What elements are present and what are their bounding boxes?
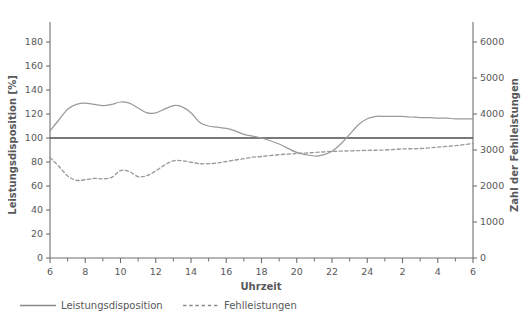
left-tick-label: 60: [31, 180, 43, 191]
right-axis-title: Zahl der Fehlleistungen: [509, 78, 520, 212]
x-tick-label: 14: [185, 266, 197, 277]
left-tick-label: 100: [25, 132, 43, 143]
x-tick-label: 4: [435, 266, 441, 277]
circadian-performance-chart: 020406080100120140160180 010002000300040…: [0, 0, 526, 323]
series-line-fehlleistungen: [50, 144, 473, 181]
x-tick-label: 24: [361, 266, 373, 277]
x-tick-label: 10: [114, 266, 126, 277]
x-tick-label: 6: [470, 266, 476, 277]
right-tick-label: 1000: [480, 216, 504, 227]
left-tick-label: 140: [25, 84, 43, 95]
right-tick-label: 4000: [480, 108, 504, 119]
x-tick-label: 16: [220, 266, 232, 277]
bottom-axis: 681012141618202224246: [47, 258, 476, 277]
chart-figure: 020406080100120140160180 010002000300040…: [0, 0, 526, 323]
chart-legend: Leistungsdisposition Fehlleistungen: [20, 300, 297, 311]
right-tick-label: 6000: [480, 36, 504, 47]
left-tick-label: 80: [31, 156, 43, 167]
series-line-leistungsdisposition: [50, 102, 473, 156]
right-tick-label: 0: [480, 252, 486, 263]
legend-item-leistungsdisposition[interactable]: Leistungsdisposition: [20, 300, 163, 311]
left-tick-label: 40: [31, 204, 43, 215]
legend-item-fehlleistungen[interactable]: Fehlleistungen: [183, 300, 297, 311]
bottom-axis-title: Uhrzeit: [241, 281, 282, 292]
x-tick-label: 20: [291, 266, 303, 277]
legend-label-fehlleistungen: Fehlleistungen: [224, 300, 297, 311]
left-axis-title: Leistungsdisposition [%]: [7, 75, 18, 214]
right-axis: 0100020003000400050006000: [473, 22, 504, 263]
series-plot-area: [50, 102, 473, 181]
x-tick-label: 8: [82, 266, 88, 277]
x-tick-label: 2: [399, 266, 405, 277]
left-tick-label: 180: [25, 36, 43, 47]
left-tick-label: 0: [37, 252, 43, 263]
x-tick-label: 12: [150, 266, 162, 277]
right-tick-label: 5000: [480, 72, 504, 83]
x-tick-label: 6: [47, 266, 53, 277]
left-axis: 020406080100120140160180: [25, 22, 50, 263]
legend-label-leistungsdisposition: Leistungsdisposition: [61, 300, 163, 311]
x-tick-label: 22: [326, 266, 338, 277]
left-tick-label: 160: [25, 60, 43, 71]
left-tick-label: 120: [25, 108, 43, 119]
right-tick-label: 2000: [480, 180, 504, 191]
x-tick-label: 18: [255, 266, 267, 277]
right-tick-label: 3000: [480, 144, 504, 155]
left-tick-label: 20: [31, 228, 43, 239]
